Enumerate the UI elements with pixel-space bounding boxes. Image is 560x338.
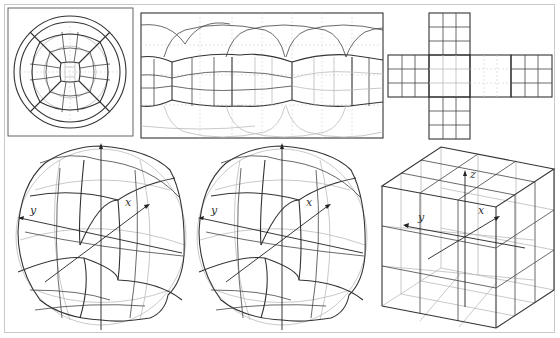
sphere-view-right: y x (197, 143, 367, 330)
z-axis-label: z (469, 168, 476, 181)
disk-projection (8, 8, 133, 136)
sphere-view-left: y x (16, 143, 186, 330)
cube-view: z y x (382, 147, 554, 328)
x-axis-label-left: x (125, 196, 132, 209)
y-axis-label-left: y (29, 204, 37, 217)
cube-net (388, 13, 552, 139)
figure-canvas: y x y x (0, 0, 560, 338)
x-axis-label-right: x (306, 196, 313, 209)
equirectangular-projection (141, 13, 383, 138)
y-axis-label-right: y (210, 204, 218, 217)
x-axis-label-cube: x (478, 204, 485, 217)
y-axis-label-cube: y (417, 211, 425, 224)
